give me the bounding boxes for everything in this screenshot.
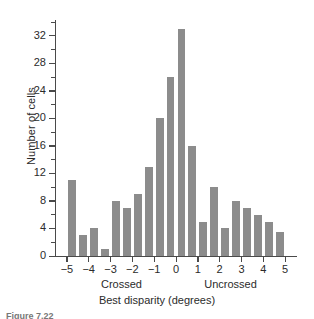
y-axis-title: Number of cells: [25, 46, 37, 206]
x-axis-tick-label: −3: [99, 264, 123, 275]
bar: [276, 232, 284, 256]
x-axis-tick: [197, 257, 198, 262]
x-axis-tick: [263, 257, 264, 262]
bar: [112, 201, 120, 256]
y-axis-tick: [49, 145, 55, 146]
y-axis-tick-label: 0: [22, 250, 46, 261]
bar: [90, 228, 98, 256]
bar: [188, 146, 196, 256]
y-axis-tick: [49, 173, 55, 174]
bar: [199, 222, 207, 256]
bar: [79, 235, 87, 256]
y-axis-tick: [49, 118, 55, 119]
bar: [101, 249, 109, 256]
y-axis-tick-label: 12: [22, 167, 46, 178]
x-axis-tick-label: 0: [164, 264, 188, 275]
x-axis-tick-label: −5: [55, 264, 79, 275]
x-axis-tick-label: 2: [208, 264, 232, 275]
region-label: Crossed: [76, 279, 166, 290]
y-axis-minor-tick: [51, 214, 55, 215]
bar: [243, 208, 251, 256]
y-axis-tick-label: 28: [22, 57, 46, 68]
y-axis-tick: [49, 63, 55, 64]
bar: [265, 222, 273, 256]
bar: [232, 201, 240, 256]
bar: [221, 228, 229, 256]
bar: [68, 180, 76, 256]
y-axis-tick: [49, 35, 55, 36]
x-axis-tick: [88, 257, 89, 262]
x-axis-tick: [241, 257, 242, 262]
x-axis-tick-label: −2: [120, 264, 144, 275]
x-axis-tick: [154, 257, 155, 262]
bar: [167, 77, 175, 256]
x-axis-tick-label: −1: [142, 264, 166, 275]
x-axis-tick-label: 3: [229, 264, 253, 275]
bar: [210, 187, 218, 256]
x-axis-tick: [219, 257, 220, 262]
y-axis-tick-label: 16: [22, 140, 46, 151]
y-axis-tick: [49, 256, 55, 257]
y-axis-tick-label: 20: [22, 112, 46, 123]
y-axis-tick-label: 4: [22, 222, 46, 233]
figure-container: Number of cells 048121620242832 −5−4−3−2…: [0, 0, 314, 319]
x-axis-tick-label: −4: [77, 264, 101, 275]
x-axis-tick-label: 1: [186, 264, 210, 275]
y-axis-minor-tick: [51, 242, 55, 243]
y-axis-tick: [49, 90, 55, 91]
bar: [156, 118, 164, 256]
bar: [178, 29, 186, 256]
x-axis-title: Best disparity (degrees): [0, 294, 314, 306]
x-axis-tick-label: 5: [273, 264, 297, 275]
x-axis-tick: [66, 257, 67, 262]
figure-caption: Figure 7.22: [6, 311, 54, 319]
y-axis-tick-label: 32: [22, 30, 46, 41]
x-axis-tick: [110, 257, 111, 262]
y-axis-minor-tick: [51, 77, 55, 78]
y-axis-minor-tick: [51, 132, 55, 133]
bar: [123, 208, 131, 256]
y-axis-tick-label: 8: [22, 195, 46, 206]
x-axis-tick: [132, 257, 133, 262]
y-axis-tick: [49, 228, 55, 229]
y-axis-minor-tick: [51, 49, 55, 50]
y-axis-minor-tick: [51, 159, 55, 160]
region-label: Uncrossed: [186, 279, 276, 290]
plot-area: [56, 22, 296, 256]
y-axis-minor-tick: [51, 187, 55, 188]
bar: [134, 194, 142, 256]
y-axis-tick: [49, 200, 55, 201]
y-axis-minor-tick: [51, 104, 55, 105]
y-axis-minor-tick: [51, 22, 55, 23]
bar: [254, 215, 262, 256]
bar: [145, 167, 153, 256]
x-axis-tick: [176, 257, 177, 262]
x-axis-tick-label: 4: [251, 264, 275, 275]
y-axis-tick-label: 24: [22, 85, 46, 96]
x-axis-tick: [285, 257, 286, 262]
